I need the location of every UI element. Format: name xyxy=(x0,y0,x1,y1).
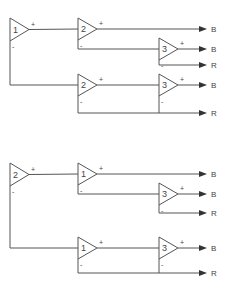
amplifier-label: 3 xyxy=(162,243,167,253)
output-arrow-icon xyxy=(199,210,207,216)
plus-sign: + xyxy=(99,20,103,27)
diagram-canvas: 1+-2+-3+-2+-3+-BBRBR2+-1+-3+-1+-3+-BBRBR xyxy=(0,0,226,288)
output-label: R xyxy=(211,109,217,118)
amplifier-label: 2 xyxy=(81,24,86,34)
wire xyxy=(29,174,78,175)
amplifier-label: 1 xyxy=(81,243,86,253)
output-arrow-icon xyxy=(199,270,207,276)
output-label: B xyxy=(211,170,216,179)
plus-sign: + xyxy=(99,165,103,172)
output-label: B xyxy=(211,244,216,253)
plus-sign: + xyxy=(99,239,103,246)
plus-sign: + xyxy=(180,239,184,246)
minus-sign: - xyxy=(80,187,83,194)
minus-sign: - xyxy=(12,188,15,195)
output-label: B xyxy=(211,190,216,199)
amplifier-label: 2 xyxy=(13,170,18,180)
amplifier-label: 3 xyxy=(162,80,167,90)
output-label: R xyxy=(211,269,217,278)
amplifier-tree-diagram: 1+-2+-3+-2+-3+-BBRBR2+-1+-3+-1+-3+-BBRBR xyxy=(0,0,226,288)
output-arrow-icon xyxy=(199,171,207,177)
minus-sign: - xyxy=(80,261,83,268)
output-arrow-icon xyxy=(199,26,207,32)
output-label: B xyxy=(211,81,216,90)
output-arrow-icon xyxy=(199,110,207,116)
output-label: R xyxy=(211,61,217,70)
output-arrow-icon xyxy=(199,82,207,88)
plus-sign: + xyxy=(31,21,35,28)
amplifier-label: 1 xyxy=(81,169,86,179)
minus-sign: - xyxy=(12,43,15,50)
output-arrow-icon xyxy=(199,62,207,68)
plus-sign: + xyxy=(31,166,35,173)
plus-sign: + xyxy=(180,76,184,83)
amplifier-label: 1 xyxy=(13,25,18,35)
minus-sign: - xyxy=(80,42,83,49)
plus-sign: + xyxy=(180,185,184,192)
output-label: R xyxy=(211,209,217,218)
plus-sign: + xyxy=(180,40,184,47)
minus-sign: - xyxy=(161,261,164,268)
output-arrow-icon xyxy=(199,245,207,251)
minus-sign: - xyxy=(161,98,164,105)
output-arrow-icon xyxy=(199,191,207,197)
output-label: B xyxy=(211,45,216,54)
wire xyxy=(29,29,78,30)
amplifier-label: 3 xyxy=(162,44,167,54)
output-label: B xyxy=(211,25,216,34)
minus-sign: - xyxy=(80,98,83,105)
output-arrow-icon xyxy=(199,46,207,52)
amplifier-label: 2 xyxy=(81,80,86,90)
amplifier-label: 3 xyxy=(162,189,167,199)
plus-sign: + xyxy=(99,76,103,83)
